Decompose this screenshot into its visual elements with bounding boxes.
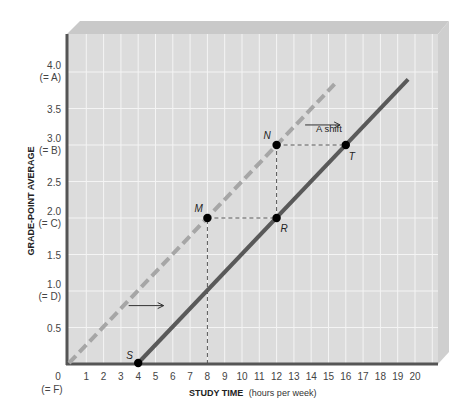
chart: SMRNT 0.51.0(= D)1.52.0(= C)2.53.0(= B)3… — [0, 0, 469, 417]
origin-label: 0 — [55, 371, 61, 382]
point-M — [203, 214, 211, 222]
x-axis-title-unit: (hours per week) — [249, 388, 317, 398]
point-label-R: R — [281, 223, 288, 234]
x-tick-label: 2 — [101, 371, 107, 382]
x-tick-label: 13 — [288, 371, 300, 382]
y-tick-label: 2.0 — [47, 206, 61, 217]
y-tick-label: 1.5 — [47, 250, 61, 261]
y-tick-sublabel: (= A) — [40, 72, 61, 83]
y-tick-label: 3.0 — [47, 133, 61, 144]
x-tick-label: 20 — [409, 371, 421, 382]
x-tick-label: 16 — [340, 371, 352, 382]
x-tick-label: 14 — [306, 371, 318, 382]
point-label-S: S — [126, 350, 133, 361]
y-tick-label: 0.5 — [47, 323, 61, 334]
x-tick-label: 11 — [254, 371, 265, 382]
x-tick-label: 12 — [271, 371, 283, 382]
x-tick-label: 8 — [205, 371, 211, 382]
x-tick-label: 10 — [236, 371, 248, 382]
x-tick-label: 1 — [84, 371, 90, 382]
x-tick-label: 3 — [118, 371, 124, 382]
x-tick-label: 7 — [187, 371, 193, 382]
y-tick-sublabel: (= C) — [39, 218, 62, 229]
y-tick-sublabel: (= B) — [39, 145, 61, 156]
x-tick-label: 15 — [323, 371, 335, 382]
x-tick-label: 4 — [135, 371, 141, 382]
plot-area — [67, 34, 438, 364]
point-S — [134, 359, 142, 367]
y-tick-sublabel: (= D) — [39, 291, 62, 302]
x-tick-label: 17 — [358, 371, 370, 382]
point-label-N: N — [264, 130, 272, 141]
y-tick-label: 2.5 — [47, 177, 61, 188]
plot-bevel-side — [438, 21, 449, 364]
x-tick-label: 9 — [222, 371, 228, 382]
point-label-M: M — [194, 203, 203, 214]
shift-note: A shift — [316, 123, 342, 134]
x-tick-label: 6 — [170, 371, 176, 382]
y-axis-title: GRADE-POINT AVERAGE — [26, 146, 36, 255]
x-tick-labels: 1234567891011121314151617181920 — [84, 371, 421, 382]
y-tick-labels: 0.51.0(= D)1.52.0(= C)2.53.0(= B)3.54.0(… — [39, 60, 62, 334]
x-tick-label: 5 — [153, 371, 159, 382]
x-tick-label: 19 — [392, 371, 404, 382]
x-tick-label: 18 — [375, 371, 387, 382]
x-axis-title-main: STUDY TIME — [189, 388, 243, 398]
plot-bevel-top — [67, 21, 449, 34]
y-tick-label: 3.5 — [47, 104, 61, 115]
origin-sublabel: (= F) — [41, 384, 62, 395]
point-R — [272, 214, 280, 222]
y-tick-label: 4.0 — [47, 60, 61, 71]
x-axis-title: STUDY TIME (hours per week) — [189, 388, 316, 398]
y-tick-label: 1.0 — [47, 279, 61, 290]
point-T — [342, 141, 350, 149]
point-label-T: T — [349, 151, 356, 162]
point-N — [272, 141, 280, 149]
